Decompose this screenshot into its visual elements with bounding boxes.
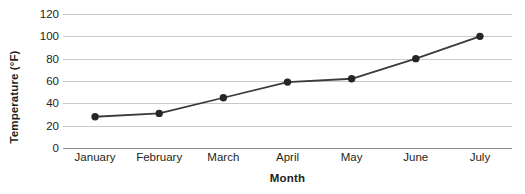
- x-axis-tick-labels: JanuaryFebruaryMarchAprilMayJuneJuly: [63, 150, 512, 166]
- y-axis-tick-label: 120: [30, 8, 59, 20]
- x-axis-tick-label: February: [136, 150, 182, 164]
- x-axis-tick-label: January: [75, 150, 116, 164]
- x-axis-line: [63, 148, 512, 149]
- data-point: [220, 94, 227, 101]
- data-point: [284, 78, 291, 85]
- data-point: [91, 113, 98, 120]
- data-point: [476, 33, 483, 40]
- y-axis-title: Temperature (°F): [3, 22, 25, 172]
- data-point: [412, 55, 419, 62]
- plot-area: [63, 14, 512, 148]
- chart-figure: Temperature (°F) 120100806040200 January…: [0, 0, 525, 194]
- y-axis-tick-label: 0: [30, 142, 59, 154]
- y-axis-tick-labels: 120100806040200: [30, 0, 59, 194]
- y-axis-tick-label: 40: [30, 97, 59, 109]
- data-point: [348, 75, 355, 82]
- x-axis-tick-label: June: [403, 150, 428, 164]
- series-markers: [91, 33, 483, 121]
- x-axis-tick-label: April: [276, 150, 299, 164]
- y-axis-tick-label: 80: [30, 53, 59, 65]
- y-axis-tick-label: 20: [30, 120, 59, 132]
- x-axis-title: Month: [63, 172, 512, 184]
- series-line: [95, 36, 480, 116]
- data-point: [156, 110, 163, 117]
- y-axis-tick-label: 100: [30, 30, 59, 42]
- temperature-line-series: [63, 14, 512, 148]
- x-axis-tick-label: July: [470, 150, 490, 164]
- x-axis-tick-label: March: [207, 150, 239, 164]
- x-axis-tick-label: May: [341, 150, 363, 164]
- y-axis-tick-label: 60: [30, 75, 59, 87]
